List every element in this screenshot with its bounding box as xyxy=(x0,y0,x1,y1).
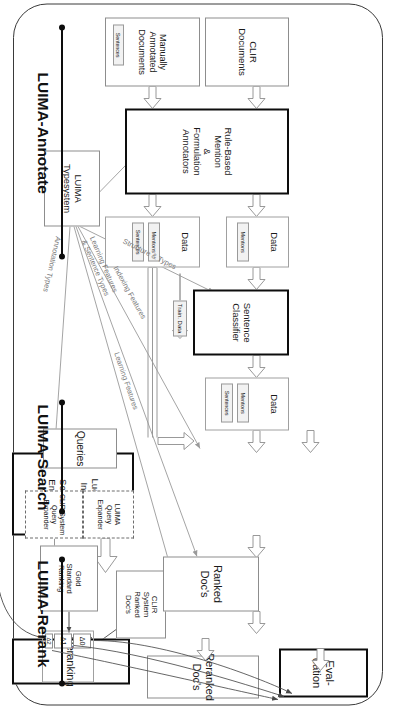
tag-mentions-mid-label: Mentions xyxy=(240,231,246,252)
tag-sentences-manual: Sentences xyxy=(113,24,124,65)
section-label-search-text: LUIMA-Search xyxy=(35,404,52,510)
delta-0-label: Δ0 xyxy=(78,636,86,644)
bracket-annotate xyxy=(58,24,66,259)
node-evaluation-line2: uation xyxy=(311,657,324,687)
node-clir-system-ranked-docs[interactable]: CLIR System Ranked Doc's xyxy=(116,570,166,638)
tag-mentions-top: Mentions xyxy=(237,383,249,422)
tag-sentences-top-label: Sentences xyxy=(224,390,230,415)
sent-class-line2: Classifier xyxy=(230,303,241,341)
tag-mentions-mid: Mentions xyxy=(237,222,249,261)
node-queries[interactable]: Queries xyxy=(43,428,117,468)
train-data-label: Train. Data xyxy=(177,303,183,332)
section-label-search: LUIMA-Search xyxy=(34,404,52,510)
ranked-docs-line2: Doc's xyxy=(198,570,211,597)
clir-ranked-line3: Ranked xyxy=(132,591,141,617)
sent-class-line1: Sentence xyxy=(241,302,252,342)
node-reranked-docs-line2: Doc's xyxy=(190,663,203,690)
luima-exp-line1: LUIMA xyxy=(113,503,121,524)
delta-0[interactable]: Δ0 xyxy=(73,633,91,648)
rule-line2: Mention xyxy=(212,135,223,168)
node-sentence-classifier[interactable]: Sentence Classifier xyxy=(193,289,289,355)
node-luima-query-expander[interactable]: LUIMA Query Expander xyxy=(83,490,134,538)
clir-ranked-line4: Doc's xyxy=(124,595,133,614)
node-rule-based-annotators[interactable]: Rule-Based Mention & Formulation Annotat… xyxy=(125,108,289,194)
bracket-rerank xyxy=(58,556,66,686)
rule-line3: & xyxy=(202,148,213,154)
node-clir-documents[interactable]: CLIR Documents xyxy=(205,17,289,86)
gold-line1: Gold xyxy=(73,570,82,586)
section-label-rerank: LUIMA-Rerank xyxy=(34,560,52,667)
rule-line5: Annotators xyxy=(181,129,192,173)
node-evaluation[interactable]: Eval- uation xyxy=(279,648,368,697)
tag-sentences-top: Sentences xyxy=(221,383,233,422)
section-label-rerank-text: LUIMA-Rerank xyxy=(35,560,52,667)
clir-ranked-line2: System xyxy=(141,591,150,616)
clir-docs-line1: CLIR xyxy=(247,41,258,62)
data-bottom-label: Data xyxy=(179,232,190,251)
node-reranked-docs-line1: Reranked xyxy=(203,653,216,701)
typesystem-line1: LUIMA xyxy=(72,174,83,202)
ranked-docs-line1: Ranked xyxy=(211,565,224,603)
node-luima-typesystem[interactable]: LUIMA Typesystem xyxy=(44,150,100,226)
section-label-annotate: LUIMA-Annotate xyxy=(34,72,52,193)
section-label-annotate-text: LUIMA-Annotate xyxy=(35,72,52,193)
rule-line4: Formulation xyxy=(191,127,202,175)
tag-mentions-top-label: Mentions xyxy=(240,392,246,413)
bracket-search xyxy=(58,399,66,514)
manual-docs-line2: Annotated xyxy=(147,31,157,72)
clir-ranked-line1: CLIR xyxy=(150,595,159,612)
node-ranked-docs[interactable]: Ranked Doc's xyxy=(163,556,259,611)
tag-mentions-bottom-label: Mentions xyxy=(151,231,157,252)
node-reranked-docs[interactable]: Reranked Doc's xyxy=(147,655,259,698)
gold-line2: Standard xyxy=(65,563,74,593)
data-top-label: Data xyxy=(268,394,279,413)
rule-line1: Rule-Based xyxy=(223,127,234,175)
queries-label: Queries xyxy=(74,430,86,466)
luima-exp-line2: Query xyxy=(104,504,112,523)
diagram-canvas: Eval- uation Reranked Doc's Reranking Go… xyxy=(0,0,396,727)
node-data-mid[interactable]: Data xyxy=(226,216,289,267)
tag-sentences-manual-label: Sentences xyxy=(116,32,122,57)
node-train-data[interactable]: Train. Data xyxy=(173,300,187,336)
luima-exp-line3: Expander xyxy=(96,499,104,529)
manual-docs-line1: Manually xyxy=(158,34,168,70)
node-evaluation-line1: Eval- xyxy=(324,660,337,685)
manual-docs-line3: Documents xyxy=(137,29,147,75)
clir-docs-line2: Documents xyxy=(236,28,247,76)
data-mid-label: Data xyxy=(268,232,279,251)
